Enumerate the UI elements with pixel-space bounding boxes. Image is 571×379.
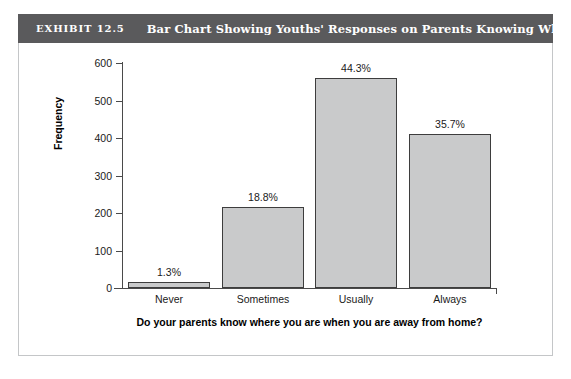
y-axis-tick-label: 0	[52, 283, 112, 294]
bar-usually[interactable]	[315, 78, 397, 288]
x-axis-category-label: Sometimes	[222, 293, 304, 305]
y-axis-tick	[116, 251, 122, 252]
y-axis-tick-label: 600	[52, 58, 112, 69]
y-axis-tick	[116, 288, 122, 289]
y-axis-tick-label: 400	[52, 133, 112, 144]
y-axis-tick-label: 500	[52, 96, 112, 107]
exhibit-page: EXHIBIT 12.5 Bar Chart Showing Youths' R…	[0, 0, 571, 379]
y-axis-tick	[116, 63, 122, 64]
x-axis-title: Do your parents know where you are when …	[122, 316, 497, 328]
bar-always[interactable]	[409, 134, 491, 289]
y-axis-tick	[116, 176, 122, 177]
bar-value-label: 44.3%	[315, 62, 397, 74]
bar-value-label: 35.7%	[409, 118, 491, 130]
y-axis-tick-label: 100	[52, 246, 112, 257]
bar-value-label: 18.8%	[222, 191, 304, 203]
x-axis-category-label: Never	[128, 293, 210, 305]
x-axis-line	[114, 288, 497, 289]
x-axis-category-label: Usually	[315, 293, 397, 305]
bar-chart: Frequency 0100200300400500600 1.3%Never1…	[0, 0, 571, 379]
x-axis-category-label: Always	[409, 293, 491, 305]
y-axis-title: Frequency	[52, 30, 64, 150]
y-axis-tick	[116, 213, 122, 214]
bar-value-label: 1.3%	[128, 266, 210, 278]
y-axis-tick-label: 200	[52, 208, 112, 219]
y-axis-tick-label: 300	[52, 171, 112, 182]
y-axis-tick	[116, 138, 122, 139]
y-axis-tick	[116, 101, 122, 102]
bar-sometimes[interactable]	[222, 207, 304, 288]
bar-never[interactable]	[128, 282, 210, 288]
x-axis-end-tick	[496, 288, 497, 294]
y-axis-line	[122, 62, 123, 289]
